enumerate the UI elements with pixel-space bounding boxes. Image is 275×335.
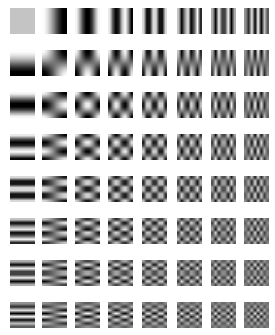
basis-cell-7-7 xyxy=(244,302,269,328)
basis-cell-7-6 xyxy=(211,302,236,328)
basis-cell-2-7 xyxy=(244,92,269,118)
basis-image xyxy=(177,50,202,76)
basis-image xyxy=(211,176,236,202)
basis-cell-0-7 xyxy=(244,8,269,34)
basis-image xyxy=(108,176,133,202)
basis-cell-0-4 xyxy=(142,8,167,34)
basis-image xyxy=(75,8,100,34)
basis-cell-0-6 xyxy=(211,8,236,34)
basis-cell-6-5 xyxy=(177,260,202,286)
basis-cell-5-5 xyxy=(177,218,202,244)
basis-cell-4-3 xyxy=(108,176,133,202)
basis-cell-7-3 xyxy=(108,302,133,328)
basis-cell-1-5 xyxy=(177,50,202,76)
basis-cell-4-1 xyxy=(42,176,67,202)
basis-image xyxy=(42,92,67,118)
basis-cell-4-4 xyxy=(142,176,167,202)
basis-image xyxy=(10,260,35,286)
basis-image xyxy=(142,218,167,244)
basis-image xyxy=(211,302,236,328)
basis-cell-4-7 xyxy=(244,176,269,202)
basis-image xyxy=(211,50,236,76)
basis-cell-5-2 xyxy=(75,218,100,244)
basis-cell-5-4 xyxy=(142,218,167,244)
basis-cell-5-1 xyxy=(42,218,67,244)
basis-image xyxy=(10,218,35,244)
basis-image xyxy=(177,302,202,328)
basis-cell-0-5 xyxy=(177,8,202,34)
basis-cell-1-3 xyxy=(108,50,133,76)
basis-cell-2-6 xyxy=(211,92,236,118)
basis-cell-6-0 xyxy=(10,260,35,286)
basis-cell-6-7 xyxy=(244,260,269,286)
basis-cell-7-0 xyxy=(10,302,35,328)
basis-image xyxy=(75,260,100,286)
basis-image xyxy=(142,8,167,34)
basis-image xyxy=(42,176,67,202)
basis-image xyxy=(75,302,100,328)
basis-cell-7-5 xyxy=(177,302,202,328)
basis-image xyxy=(211,8,236,34)
basis-cell-3-2 xyxy=(75,134,100,160)
basis-cell-2-5 xyxy=(177,92,202,118)
basis-image xyxy=(10,50,35,76)
basis-cell-3-4 xyxy=(142,134,167,160)
basis-cell-1-6 xyxy=(211,50,236,76)
basis-cell-2-0 xyxy=(10,92,35,118)
basis-image xyxy=(244,92,269,118)
basis-image xyxy=(42,218,67,244)
basis-cell-6-4 xyxy=(142,260,167,286)
basis-image xyxy=(142,302,167,328)
basis-cell-5-0 xyxy=(10,218,35,244)
basis-image xyxy=(108,218,133,244)
basis-image xyxy=(244,50,269,76)
basis-cell-6-1 xyxy=(42,260,67,286)
basis-image xyxy=(10,8,35,34)
basis-cell-0-1 xyxy=(42,8,67,34)
basis-image xyxy=(177,92,202,118)
basis-cell-2-3 xyxy=(108,92,133,118)
basis-image xyxy=(10,134,35,160)
basis-image xyxy=(142,50,167,76)
basis-cell-0-0 xyxy=(10,8,35,34)
basis-image xyxy=(42,8,67,34)
basis-cell-4-5 xyxy=(177,176,202,202)
basis-image xyxy=(244,176,269,202)
basis-image xyxy=(75,218,100,244)
basis-cell-3-6 xyxy=(211,134,236,160)
basis-cell-4-2 xyxy=(75,176,100,202)
basis-image xyxy=(244,302,269,328)
basis-image xyxy=(211,260,236,286)
basis-cell-6-3 xyxy=(108,260,133,286)
basis-image xyxy=(177,134,202,160)
basis-cell-4-6 xyxy=(211,176,236,202)
basis-cell-0-2 xyxy=(75,8,100,34)
basis-image xyxy=(177,260,202,286)
basis-cell-1-2 xyxy=(75,50,100,76)
basis-cell-4-0 xyxy=(10,176,35,202)
basis-cell-7-4 xyxy=(142,302,167,328)
basis-cell-1-7 xyxy=(244,50,269,76)
basis-image xyxy=(75,134,100,160)
basis-image xyxy=(75,176,100,202)
basis-image xyxy=(244,260,269,286)
basis-image xyxy=(108,302,133,328)
basis-image xyxy=(75,92,100,118)
basis-image xyxy=(211,92,236,118)
basis-image xyxy=(177,8,202,34)
basis-image xyxy=(42,260,67,286)
basis-image xyxy=(108,92,133,118)
basis-image xyxy=(177,176,202,202)
basis-cell-1-0 xyxy=(10,50,35,76)
basis-image xyxy=(10,92,35,118)
basis-cell-1-1 xyxy=(42,50,67,76)
basis-image xyxy=(177,218,202,244)
basis-image xyxy=(142,260,167,286)
basis-image xyxy=(108,134,133,160)
basis-cell-3-0 xyxy=(10,134,35,160)
basis-cell-2-1 xyxy=(42,92,67,118)
basis-cell-7-1 xyxy=(42,302,67,328)
basis-image xyxy=(244,218,269,244)
basis-image xyxy=(244,134,269,160)
basis-cell-6-2 xyxy=(75,260,100,286)
